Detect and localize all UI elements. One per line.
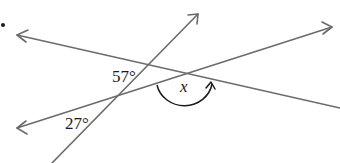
- arrowhead-left-lower-icon: [17, 121, 27, 134]
- angle-label-27: 27°: [65, 114, 89, 133]
- angle-label-57: 57°: [112, 67, 136, 86]
- geometry-diagram: 57° 27° x: [0, 0, 340, 163]
- unknown-angle-x: x: [179, 77, 188, 96]
- question-bullet-dot: [1, 23, 5, 27]
- line-a: [17, 30, 340, 108]
- line-b: [52, 14, 198, 163]
